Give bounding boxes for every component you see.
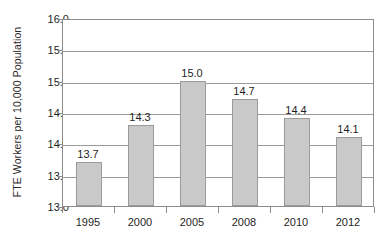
gridline [63,145,373,146]
bar-value-label: 14.3 [129,111,150,123]
bar [180,81,206,206]
gridline [63,83,373,84]
x-axis-tick-label: 2008 [214,216,274,228]
x-axis-tick-label: 2005 [162,216,222,228]
x-axis-tick-mark [322,207,323,213]
x-axis-tick-mark [114,207,115,213]
x-axis-tick-mark [374,207,375,213]
x-axis-tick-mark [270,207,271,213]
gridline [63,51,373,52]
bar [232,99,258,206]
bar [76,162,102,206]
bar [128,125,154,206]
gridline [63,177,373,178]
bar-value-label: 13.7 [77,148,98,160]
bar-value-label: 14.1 [337,123,358,135]
x-axis-tick-mark [218,207,219,213]
bar-chart-figure: FTE Workers per 10,000 Population 16.015… [0,0,390,238]
gridline [63,114,373,115]
x-axis-tick-label: 1995 [58,216,118,228]
bar [284,118,310,206]
x-axis-tick-label: 2010 [266,216,326,228]
x-axis-tick-mark [62,207,63,213]
bar-value-label: 15.0 [181,67,202,79]
bar-value-label: 14.7 [233,85,254,97]
bar-value-label: 14.4 [285,104,306,116]
x-axis-tick-mark [166,207,167,213]
bar [336,137,362,206]
y-axis-title: FTE Workers per 10,000 Population [9,12,25,212]
plot-area [62,19,374,207]
x-axis-tick-label: 2000 [110,216,170,228]
x-axis-tick-label: 2012 [318,216,378,228]
